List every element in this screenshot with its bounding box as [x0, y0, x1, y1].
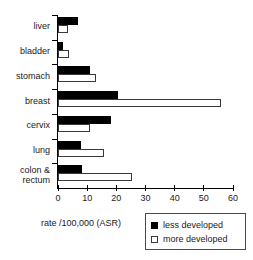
y-tick-mark — [52, 15, 58, 16]
y-tick-mark — [52, 64, 58, 65]
category-label-cervix: cervix — [0, 120, 50, 130]
bar-less-developed-breast — [58, 91, 118, 99]
legend-item-more-developed: more developed — [151, 232, 245, 246]
x-tick-mark — [233, 185, 234, 191]
x-tick-label: 40 — [163, 193, 187, 203]
x-tick-mark — [203, 185, 204, 191]
category-label-line: liver — [0, 21, 50, 31]
legend-label-less-developed: less developed — [163, 220, 223, 230]
bar-more-developed-colon-rectum — [58, 173, 132, 181]
bar-more-developed-cervix — [58, 124, 90, 132]
x-tick-mark — [174, 185, 175, 191]
bar-more-developed-breast — [58, 99, 221, 107]
x-tick-mark — [145, 185, 146, 191]
legend-item-less-developed: less developed — [151, 218, 245, 232]
category-label-line: stomach — [0, 71, 50, 81]
category-label-stomach: stomach — [0, 71, 50, 81]
x-tick-mark — [87, 185, 88, 191]
bar-more-developed-bladder — [58, 50, 69, 58]
category-label-breast: breast — [0, 96, 50, 106]
legend-label-more-developed: more developed — [163, 234, 228, 244]
x-tick-label: 0 — [46, 193, 70, 203]
chart-figure: liverbladderstomachbreastcervixlungcolon… — [0, 0, 253, 260]
bar-more-developed-liver — [58, 25, 68, 33]
x-tick-mark — [58, 185, 59, 191]
bar-more-developed-stomach — [58, 74, 96, 82]
y-tick-mark — [52, 89, 58, 90]
bar-less-developed-cervix — [58, 116, 111, 124]
bar-less-developed-liver — [58, 17, 78, 25]
bar-more-developed-lung — [58, 149, 104, 157]
x-tick-mark — [116, 185, 117, 191]
legend-swatch-open-square-icon — [151, 236, 158, 243]
category-label-liver: liver — [0, 21, 50, 31]
y-tick-mark — [52, 163, 58, 164]
category-label-line: rectum — [0, 175, 50, 185]
x-tick-label: 50 — [192, 193, 216, 203]
category-label-line: bladder — [0, 46, 50, 56]
x-axis-title: rate /100,000 (ASR) — [41, 218, 121, 229]
category-label-line: cervix — [0, 120, 50, 130]
x-tick-label: 20 — [104, 193, 128, 203]
x-tick-label: 60 — [221, 193, 245, 203]
bar-less-developed-bladder — [58, 42, 63, 50]
category-label-line: breast — [0, 96, 50, 106]
bar-less-developed-stomach — [58, 66, 90, 74]
bar-less-developed-colon-rectum — [58, 165, 82, 173]
bar-less-developed-lung — [58, 141, 81, 149]
category-label-colon-rectum: colon &rectum — [0, 165, 50, 185]
category-label-lung: lung — [0, 145, 50, 155]
x-tick-label: 10 — [75, 193, 99, 203]
x-tick-label: 30 — [134, 193, 158, 203]
category-label-line: colon & — [0, 165, 50, 175]
category-label-bladder: bladder — [0, 46, 50, 56]
legend-swatch-filled-square-icon — [151, 222, 158, 229]
plot-area: liverbladderstomachbreastcervixlungcolon… — [0, 0, 253, 260]
y-tick-mark — [52, 114, 58, 115]
category-label-line: lung — [0, 145, 50, 155]
legend-box: less developed more developed — [145, 213, 246, 250]
